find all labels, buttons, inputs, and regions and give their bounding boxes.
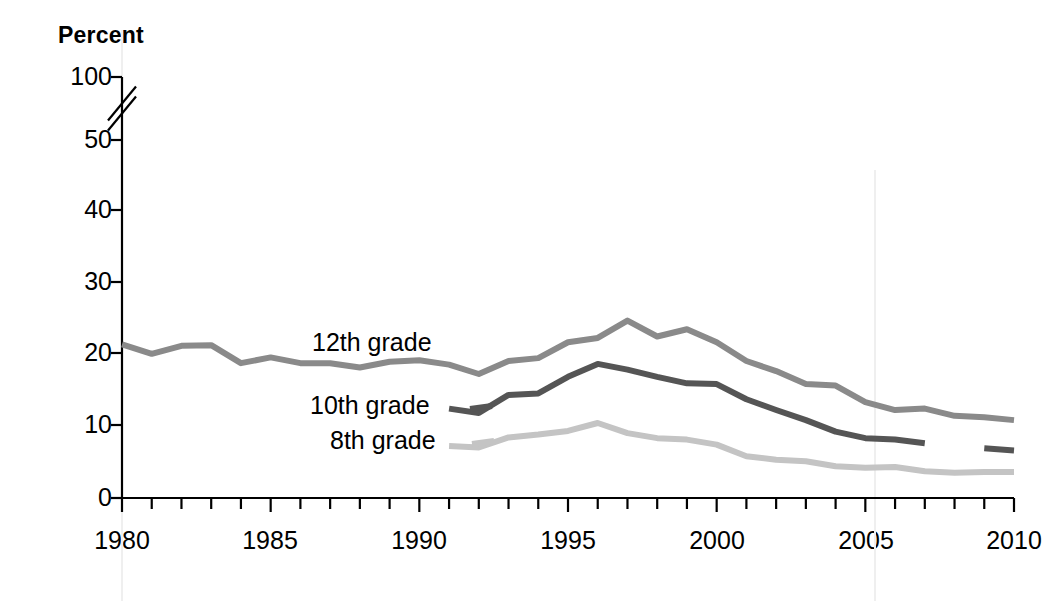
chart-container: Percent 10050403020100 19801985199019952… (0, 0, 1060, 601)
series-lines (122, 321, 1014, 473)
series-line-10th-grade-extra-segment (984, 448, 1014, 450)
series-line-8th-grade (449, 423, 1014, 473)
series-line-10th-grade (449, 364, 925, 443)
legend-dash-8th-grade (472, 441, 494, 444)
background-guide-lines (122, 30, 875, 601)
axes (108, 77, 1014, 512)
chart-svg (0, 0, 1060, 601)
series-line-12th-grade (122, 321, 1014, 421)
legend-dash-10th-grade (470, 406, 492, 409)
